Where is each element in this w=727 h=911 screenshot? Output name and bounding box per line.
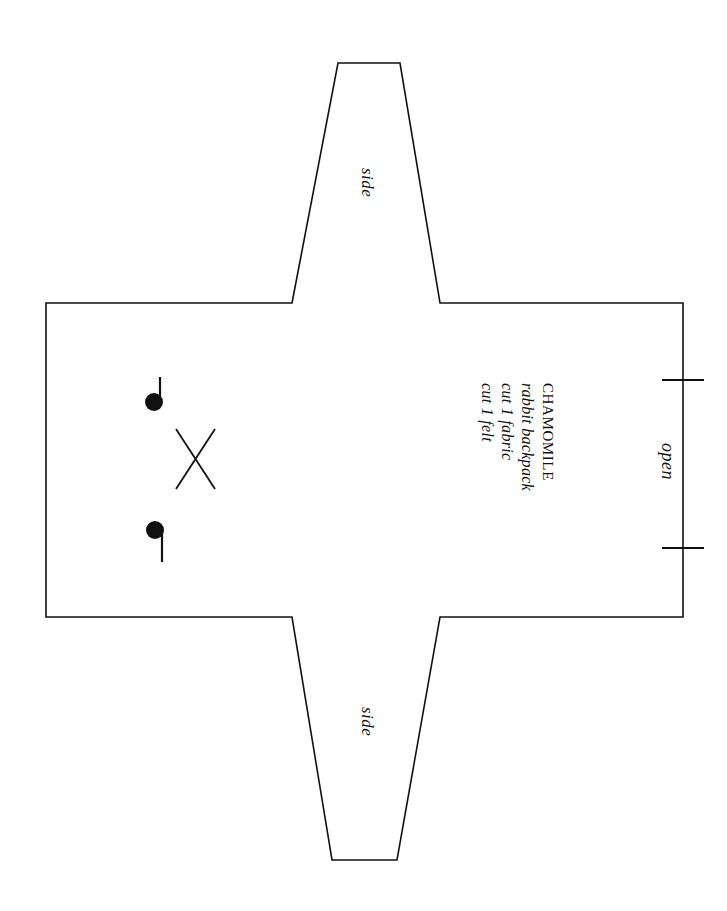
pattern-sheet: side side open CHAMOMILE rabbit backpack… [0, 0, 727, 911]
placement-dot-top [145, 393, 163, 411]
placement-dot-bottom [146, 521, 164, 539]
pattern-cut-felt: cut 1 felt [478, 383, 496, 533]
pattern-cut-fabric: cut 1 fabric [498, 383, 516, 533]
label-side-top: side [359, 168, 376, 197]
pattern-title: CHAMOMILE [539, 383, 556, 533]
label-open: open [659, 443, 677, 480]
pattern-piece-name: rabbit backpack [518, 383, 536, 533]
label-side-bottom: side [359, 707, 376, 736]
pattern-info-block: CHAMOMILE rabbit backpack cut 1 fabric c… [476, 383, 556, 533]
pattern-outline-svg [0, 0, 727, 911]
